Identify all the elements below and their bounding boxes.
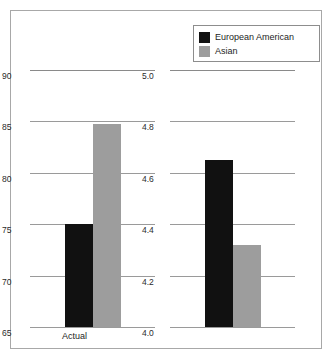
legend-label-european-american: European American bbox=[215, 32, 294, 43]
legend-swatch-gray bbox=[199, 46, 210, 57]
legend-item-european-american: European American bbox=[199, 30, 315, 44]
y-axis-tick-label: 4.0 bbox=[142, 328, 154, 338]
gridline bbox=[30, 327, 155, 328]
plot-area-retrospective: 5.04.84.64.44.24.0 bbox=[170, 70, 295, 327]
y-axis-tick-label: 4.8 bbox=[142, 122, 154, 132]
y-axis-tick-label: 85 bbox=[2, 122, 11, 132]
bar-asian bbox=[93, 124, 121, 327]
y-axis-tick-label: 70 bbox=[2, 277, 11, 287]
y-axis-tick-label: 90 bbox=[2, 71, 11, 81]
figure: 908580757065 Actual 5.04.84.64.44.24.0 R… bbox=[0, 0, 332, 361]
legend-label-asian: Asian bbox=[215, 46, 238, 57]
y-axis-tick-label: 4.6 bbox=[142, 174, 154, 184]
y-axis-tick-label: 80 bbox=[2, 174, 11, 184]
bar-european-american bbox=[65, 224, 93, 327]
category-label-actual: Actual bbox=[62, 331, 87, 341]
bar-asian bbox=[233, 245, 261, 327]
bar-group bbox=[205, 70, 261, 327]
y-axis-tick-label: 4.4 bbox=[142, 225, 154, 235]
bar-european-american bbox=[205, 160, 233, 327]
y-axis-tick-label: 5.0 bbox=[142, 71, 154, 81]
plot-area-actual: 908580757065 bbox=[30, 70, 155, 327]
bar-group bbox=[65, 70, 121, 327]
y-axis-tick-label: 65 bbox=[2, 328, 11, 338]
legend-swatch-black bbox=[199, 32, 210, 43]
gridline bbox=[170, 327, 295, 328]
chart-legend: European American Asian bbox=[193, 25, 320, 62]
y-axis-tick-label: 4.2 bbox=[142, 277, 154, 287]
legend-item-asian: Asian bbox=[199, 44, 315, 58]
y-axis-tick-label: 75 bbox=[2, 225, 11, 235]
